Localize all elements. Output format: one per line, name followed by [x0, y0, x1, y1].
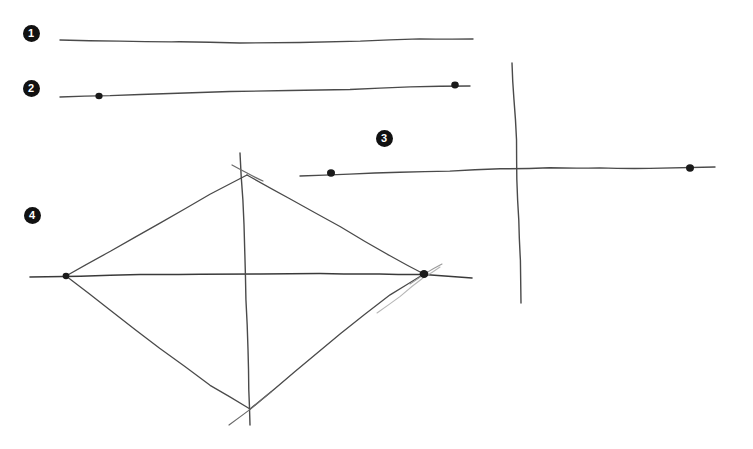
dot-diamond-right-vertex — [420, 270, 429, 278]
line-3-vertical — [512, 63, 521, 303]
diamond-edge-top-right — [247, 175, 424, 274]
dot-line-3-endpoint — [686, 164, 694, 171]
sketch-canvas: 1234 — [0, 0, 753, 449]
line-2-horizontal — [60, 86, 470, 97]
diamond-edge-top-left — [66, 175, 247, 276]
dot-diamond-left-vertex — [63, 273, 70, 279]
sketch-drawing-layer — [0, 0, 753, 449]
diamond-edge-bottom-left — [66, 276, 250, 409]
tick-cross-top-vertex — [232, 165, 263, 181]
dot-line-2-endpoint — [451, 82, 459, 89]
line-1-horizontal — [60, 39, 473, 43]
dot-line-2-interior — [95, 93, 102, 100]
diamond-edge-bottom-right — [250, 274, 424, 409]
step-marker-1: 1 — [23, 25, 40, 42]
line-3-horizontal — [300, 167, 715, 176]
step-marker-4: 4 — [24, 207, 41, 224]
step-marker-2: 2 — [23, 80, 40, 97]
dot-line-3-interior — [327, 169, 335, 176]
step-marker-3: 3 — [376, 130, 393, 147]
diamond-horizontal-axis — [30, 273, 472, 278]
diamond-vertical-axis — [240, 153, 250, 425]
strokes-group — [30, 39, 715, 425]
